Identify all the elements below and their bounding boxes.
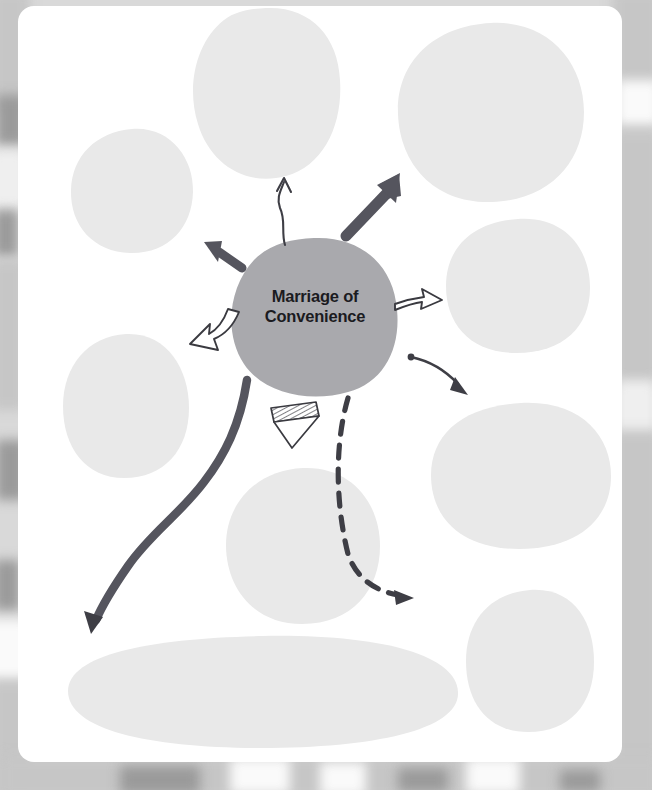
- diagram-canvas: Marriage of Convenience: [0, 0, 652, 790]
- arrow-hatched-down[interactable]: [271, 402, 319, 448]
- arrow-dot-curve[interactable]: [408, 354, 468, 395]
- arrow-thick-upleft[interactable]: [204, 241, 242, 268]
- arrow-thin-up[interactable]: [277, 178, 291, 245]
- diagram-card: Marriage of Convenience: [18, 6, 622, 762]
- arrow-thick-upright[interactable]: [346, 173, 401, 236]
- arrow-tapered-scurve[interactable]: [84, 380, 247, 634]
- arrow-layer: [18, 6, 622, 762]
- arrow-dashed-curve[interactable]: [338, 398, 414, 605]
- diagram-surface: Marriage of Convenience: [18, 6, 622, 762]
- arrow-hollow-left[interactable]: [190, 309, 239, 350]
- arrow-hollow-right[interactable]: [395, 289, 442, 310]
